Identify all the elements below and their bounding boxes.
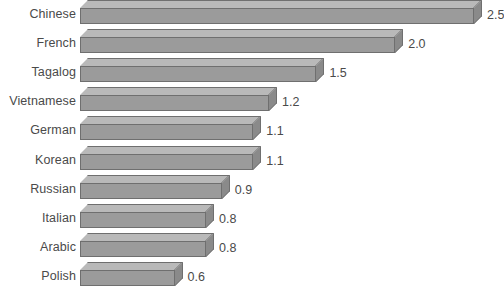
bar	[80, 262, 175, 291]
bar-row: Russian0.9	[0, 175, 503, 204]
bar	[80, 29, 395, 58]
bar	[80, 58, 316, 87]
bar-top-face	[80, 233, 214, 241]
bar-top-face	[80, 87, 277, 95]
bar-front-face	[80, 241, 206, 257]
value-label: 1.1	[266, 116, 283, 145]
bar-row: Chinese2.5	[0, 0, 503, 29]
value-label: 1.5	[329, 58, 346, 87]
bar	[80, 116, 253, 145]
category-label: Tagalog	[32, 58, 77, 87]
bar-row: French2.0	[0, 29, 503, 58]
bar-top-face	[80, 116, 261, 124]
bar-row: Vietnamese1.2	[0, 87, 503, 116]
bar-row: Tagalog1.5	[0, 58, 503, 87]
bar-front-face	[80, 270, 175, 286]
bar-top-face	[80, 204, 214, 212]
bar-top-face	[80, 58, 324, 66]
category-label: Italian	[42, 204, 76, 233]
bar-front-face	[80, 8, 474, 24]
bar-front-face	[80, 154, 253, 170]
bar-top-face	[80, 29, 403, 37]
bar-front-face	[80, 183, 222, 199]
bar	[80, 87, 269, 116]
category-label: Korean	[35, 146, 76, 175]
bar-row: Korean1.1	[0, 146, 503, 175]
value-label: 2.0	[408, 29, 425, 58]
bar-front-face	[80, 37, 395, 53]
bar	[80, 0, 474, 29]
category-label: Polish	[41, 262, 76, 291]
bar-top-face	[80, 175, 230, 183]
bar-front-face	[80, 66, 316, 82]
category-label: Vietnamese	[9, 87, 76, 116]
bar-top-face	[80, 262, 183, 270]
category-label: French	[36, 29, 76, 58]
value-label: 1.1	[266, 146, 283, 175]
bar-front-face	[80, 95, 269, 111]
bar-top-face	[80, 146, 261, 154]
value-label: 0.6	[188, 262, 205, 291]
category-label: Arabic	[40, 233, 76, 262]
value-label: 0.9	[235, 175, 252, 204]
value-label: 1.2	[282, 87, 299, 116]
value-label: 0.8	[219, 233, 236, 262]
bar-row: Polish0.6	[0, 262, 503, 291]
bar-row: Arabic0.8	[0, 233, 503, 262]
category-label: Chinese	[29, 0, 76, 29]
value-label: 2.5	[487, 0, 504, 29]
bar-front-face	[80, 212, 206, 228]
bar	[80, 175, 222, 204]
bar	[80, 146, 253, 175]
bar-row: German1.1	[0, 116, 503, 145]
category-label: Russian	[30, 175, 76, 204]
bar	[80, 204, 206, 233]
category-label: German	[30, 116, 76, 145]
bar-top-face	[80, 0, 482, 8]
bar	[80, 233, 206, 262]
bar-front-face	[80, 124, 253, 140]
value-label: 0.8	[219, 204, 236, 233]
bar-row: Italian0.8	[0, 204, 503, 233]
